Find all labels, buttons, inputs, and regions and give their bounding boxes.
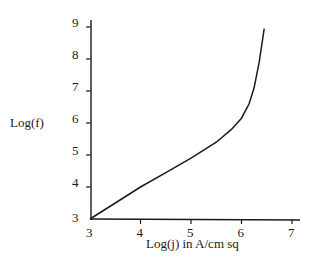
y-tick-label: 8 bbox=[72, 47, 79, 63]
y-tick-label: 4 bbox=[72, 175, 79, 191]
x-tick-label: 4 bbox=[137, 225, 144, 241]
y-tick-label: 5 bbox=[72, 143, 79, 159]
x-tick-label: 7 bbox=[288, 225, 295, 241]
data-curve bbox=[90, 29, 264, 219]
y-tick-label: 3 bbox=[72, 210, 79, 226]
y-tick-label: 6 bbox=[72, 111, 79, 127]
y-tick-label: 9 bbox=[72, 15, 79, 31]
y-tick-label: 7 bbox=[72, 79, 79, 95]
y-axis-label: Log(f) bbox=[10, 115, 44, 131]
y-axis-ticks bbox=[86, 27, 91, 187]
x-tick-label: 3 bbox=[86, 225, 93, 241]
x-axis bbox=[90, 219, 300, 220]
x-axis-label: Log(j) in A/cm sq bbox=[146, 236, 239, 252]
chart-plot-area bbox=[0, 0, 317, 271]
